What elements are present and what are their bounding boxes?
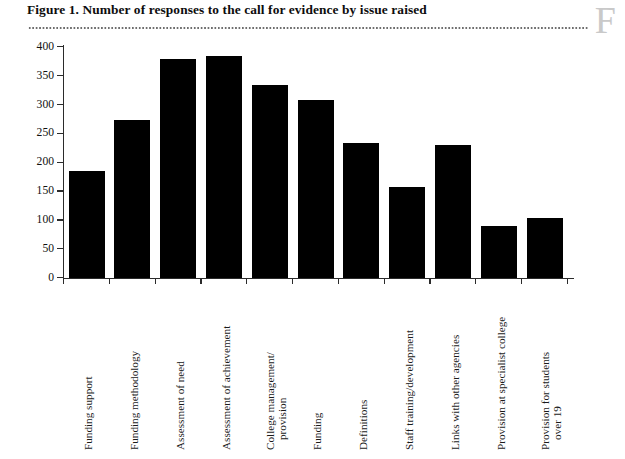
- y-axis-tick-label: 50: [16, 243, 54, 254]
- x-axis-category-label-line: Provision at specialist college: [495, 317, 507, 450]
- bar: [298, 100, 334, 278]
- y-axis-tick-label: 300: [16, 99, 54, 110]
- x-axis-category-label: Provision at specialist college: [495, 317, 507, 450]
- x-axis-category-label: College management/provision: [264, 352, 289, 450]
- x-axis-category-label: Provision for studentsover 19: [539, 352, 564, 450]
- x-axis-category-label: Assessment of achievement: [220, 326, 232, 450]
- y-axis-tick-label-text: 0: [20, 272, 54, 283]
- y-axis-tick: [57, 46, 64, 47]
- x-axis-line: [63, 278, 574, 279]
- x-axis-tick: [246, 278, 247, 284]
- y-axis-tick-label-text: 300: [20, 99, 54, 110]
- x-axis-category-label: Definitions: [357, 400, 369, 450]
- x-axis-category-label-line: Staff training/development: [403, 330, 415, 450]
- bar: [252, 85, 288, 277]
- x-axis-category-label: Assessment of need: [174, 361, 186, 450]
- x-axis-category-label: Links with other agencies: [449, 335, 461, 450]
- y-axis-tick-label: 250: [16, 127, 54, 138]
- x-axis-tick: [384, 278, 385, 284]
- x-axis-category-label-line: Assessment of achievement: [220, 326, 232, 450]
- bar: [481, 226, 517, 277]
- bar: [160, 59, 196, 277]
- x-axis-tick: [63, 278, 64, 284]
- y-axis-tick-label: 200: [16, 156, 54, 167]
- x-axis-tick: [155, 278, 156, 284]
- bar: [114, 120, 150, 278]
- x-axis-tick: [429, 278, 430, 284]
- x-axis-category-label-line: Assessment of need: [174, 361, 186, 450]
- y-axis-tick-label: 150: [16, 185, 54, 196]
- bar: [206, 56, 242, 278]
- y-axis-tick: [57, 75, 64, 76]
- bar: [343, 143, 379, 278]
- x-axis-tick: [475, 278, 476, 284]
- y-axis-tick-label: 400: [16, 41, 54, 52]
- x-axis-tick: [200, 278, 201, 284]
- y-axis-tick-label: 0: [16, 272, 54, 283]
- x-axis-category-label: Staff training/development: [403, 330, 415, 450]
- x-axis-category-label-line: Funding: [311, 413, 323, 450]
- y-axis-tick: [57, 219, 64, 220]
- x-axis-category-label: Funding methodology: [128, 351, 140, 450]
- y-axis-tick: [57, 133, 64, 134]
- figure-container: Figure 1. Number of responses to the cal…: [0, 0, 625, 459]
- x-axis-category-label-line: College management/: [264, 352, 276, 450]
- x-axis-tick: [109, 278, 110, 284]
- x-axis-category-label-line: Links with other agencies: [449, 335, 461, 450]
- x-axis-category-label: Funding support: [82, 376, 94, 450]
- x-axis-tick: [567, 278, 568, 284]
- bar-chart-plot: 050100150200250300350400 Funding support…: [0, 0, 625, 459]
- bar: [435, 145, 471, 277]
- y-axis-tick-label-text: 200: [20, 156, 54, 167]
- bar: [527, 218, 563, 278]
- y-axis-tick-label-text: 250: [20, 127, 54, 138]
- x-axis-category-label-line: over 19: [551, 352, 563, 450]
- y-axis-tick-label-text: 100: [20, 214, 54, 225]
- x-axis-category-label-line: provision: [276, 352, 288, 450]
- x-axis-tick: [292, 278, 293, 284]
- x-axis-category-label-line: Funding methodology: [128, 351, 140, 450]
- bar: [389, 187, 425, 278]
- y-axis-tick: [57, 248, 64, 249]
- x-axis-category-label-line: Funding support: [82, 376, 94, 450]
- y-axis-tick: [57, 162, 64, 163]
- x-axis-category-label-line: Definitions: [357, 400, 369, 450]
- x-axis-tick: [338, 278, 339, 284]
- y-axis-tick: [57, 104, 64, 105]
- y-axis-tick-label-text: 150: [20, 185, 54, 196]
- y-axis-tick-label-text: 350: [20, 70, 54, 81]
- x-axis-category-label-line: Provision for students: [539, 352, 551, 450]
- y-axis-tick-label-text: 50: [20, 243, 54, 254]
- bar: [69, 171, 105, 278]
- y-axis-tick-label: 100: [16, 214, 54, 225]
- y-axis-tick-label-text: 400: [20, 41, 54, 52]
- y-axis-tick: [57, 190, 64, 191]
- y-axis-tick-label: 350: [16, 70, 54, 81]
- x-axis-category-label: Funding: [311, 413, 323, 450]
- x-axis-tick: [521, 278, 522, 284]
